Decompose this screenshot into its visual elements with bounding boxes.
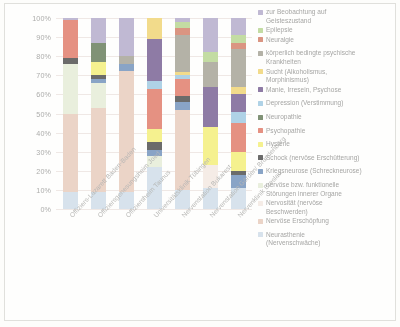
legend-label-line: Psychopathie [266, 127, 305, 136]
legend-label-line: Nervöse Erschöpfung [266, 217, 329, 226]
bar-segment[interactable] [119, 56, 134, 64]
bar-segment[interactable] [147, 18, 162, 39]
legend-swatch-icon [258, 155, 263, 160]
legend-swatch-icon [258, 101, 263, 106]
legend-swatch-icon [258, 51, 263, 56]
bar-segment[interactable] [147, 89, 162, 129]
y-axis-tick: 0% [40, 205, 51, 214]
legend-item[interactable]: Depression (Verstimmung) [258, 99, 396, 108]
legend-swatch-icon [258, 232, 263, 237]
legend-label: Manie, Irresein, Psychose [266, 86, 341, 95]
bar-segment[interactable] [175, 79, 190, 96]
bar-segment[interactable] [231, 35, 246, 43]
legend-label-line: (Nervenschwäche) [266, 239, 321, 248]
legend-label: Neurasthenie(Nervenschwäche) [266, 231, 321, 248]
legend-item[interactable]: Nervöse Erschöpfung [258, 217, 396, 226]
y-axis-tick: 90% [36, 33, 51, 42]
y-axis-tick: 20% [36, 166, 51, 175]
legend-label: Neuropathie [266, 113, 302, 122]
legend-label: Neuralgie [266, 36, 294, 45]
bar-segment[interactable] [147, 81, 162, 89]
legend-item[interactable]: nervöse bzw. funktionelleStörungen inner… [258, 181, 396, 198]
legend-item[interactable]: Manie, Irresein, Psychose [258, 86, 396, 95]
bar-segment[interactable] [231, 123, 246, 152]
legend-label-line: Hysterie [266, 140, 290, 149]
legend-label: zur Beobachtung aufGeisteszustand [266, 8, 326, 25]
y-axis-tick: 80% [36, 52, 51, 61]
bar-segment[interactable] [231, 112, 246, 123]
legend-item[interactable]: Hysterie [258, 140, 396, 149]
y-axis-tick: 70% [36, 71, 51, 80]
bar-segment[interactable] [203, 62, 218, 87]
legend-label-line: Schock (nervöse Erschütterung) [266, 154, 359, 163]
bar-segment[interactable] [231, 49, 246, 87]
bar-segment[interactable] [175, 102, 190, 110]
bar-segment[interactable] [119, 18, 134, 56]
y-axis-tick: 30% [36, 147, 51, 156]
bar-segment[interactable] [63, 114, 78, 192]
bar-segment[interactable] [231, 18, 246, 35]
legend-swatch-icon [258, 69, 263, 74]
legend-item[interactable]: Sucht (Alkoholismus,Morphinismus) [258, 68, 396, 85]
y-axis-tick: 50% [36, 109, 51, 118]
legend-item[interactable]: Schock (nervöse Erschütterung) [258, 154, 396, 163]
y-axis-tick: 10% [36, 185, 51, 194]
chart-sheet: 0%10%20%30%40%50%60%70%80%90%100% Offizi… [0, 0, 400, 327]
bar-segment[interactable] [91, 83, 106, 108]
legend-label-line: nervöse bzw. funktionelle [266, 181, 342, 190]
bar-segment[interactable] [203, 87, 218, 127]
legend-label: Sucht (Alkoholismus,Morphinismus) [266, 68, 327, 85]
legend-swatch-icon [258, 37, 263, 42]
bar-segment[interactable] [203, 18, 218, 52]
legend-label-line: Neurasthenie [266, 231, 321, 240]
legend-label-line: Neuralgie [266, 36, 294, 45]
bar-segment[interactable] [175, 35, 190, 71]
bar-segment[interactable] [175, 28, 190, 36]
bar-segment[interactable] [63, 64, 78, 114]
legend-label-line: körperlich bedingte psychische [266, 49, 355, 58]
legend-label: Depression (Verstimmung) [266, 99, 343, 108]
legend-label: Hysterie [266, 140, 290, 149]
legend-item[interactable]: Neurasthenie(Nervenschwäche) [258, 231, 396, 248]
legend-item[interactable]: Nervosität (nervöseBeschwerden) [258, 199, 396, 216]
legend-item[interactable]: Neuralgie [258, 36, 396, 45]
legend-label: Epilepsie [266, 26, 293, 35]
legend-swatch-icon [258, 28, 263, 33]
legend-swatch-icon [258, 183, 263, 188]
legend-item[interactable]: Neuropathie [258, 113, 396, 122]
x-axis-labels: Offiziers-Lazarett Baden-BadenOffiziersg… [56, 211, 256, 323]
bar-segment[interactable] [203, 52, 218, 62]
legend-swatch-icon [258, 142, 263, 147]
bar-segment[interactable] [91, 62, 106, 75]
y-axis-tick: 40% [36, 128, 51, 137]
bar-segment[interactable] [231, 152, 246, 171]
legend-item[interactable]: Psychopathie [258, 127, 396, 136]
bar-segment[interactable] [147, 142, 162, 150]
legend-label-line: Kriegsneurose (Schreckneurose) [266, 167, 362, 176]
legend-item[interactable]: Epilepsie [258, 26, 396, 35]
legend-label-line: Epilepsie [266, 26, 293, 35]
bar-segment[interactable] [119, 64, 134, 72]
legend-label-line: zur Beobachtung auf [266, 8, 326, 17]
legend-label: Nervöse Erschöpfung [266, 217, 329, 226]
bar-segment[interactable] [147, 39, 162, 81]
bar-segment[interactable] [91, 18, 106, 43]
legend-label: körperlich bedingte psychischeKrankheite… [266, 49, 355, 66]
legend-label-line: Sucht (Alkoholismus, [266, 68, 327, 77]
legend-label-line: Beschwerden) [266, 208, 323, 217]
legend-item[interactable]: zur Beobachtung aufGeisteszustand [258, 8, 396, 25]
legend-item[interactable]: Kriegsneurose (Schreckneurose) [258, 167, 396, 176]
stacked-bar[interactable] [63, 18, 78, 209]
bar-segment[interactable] [231, 94, 246, 111]
legend-label: nervöse bzw. funktionelleStörungen inner… [266, 181, 342, 198]
bar-segment[interactable] [91, 43, 106, 62]
legend-swatch-icon [258, 115, 263, 120]
bar-segment[interactable] [63, 20, 78, 58]
legend-label: Schock (nervöse Erschütterung) [266, 154, 359, 163]
legend-item[interactable]: körperlich bedingte psychischeKrankheite… [258, 49, 396, 66]
legend-label-line: Geisteszustand [266, 17, 326, 26]
bar-segment[interactable] [147, 129, 162, 142]
bar-segment[interactable] [119, 71, 134, 191]
legend-label: Psychopathie [266, 127, 305, 136]
bar-segment[interactable] [231, 87, 246, 95]
